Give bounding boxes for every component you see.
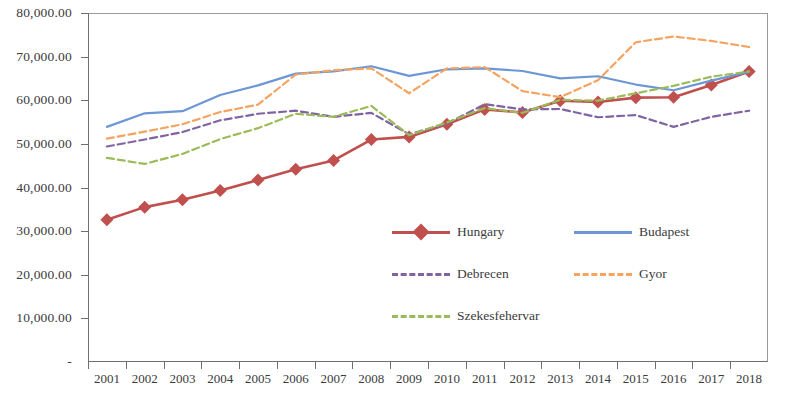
x-axis-label: 2014 — [585, 371, 611, 387]
x-axis-label: 2005 — [245, 371, 271, 387]
x-axis-tick — [428, 362, 429, 369]
x-axis-tick — [541, 362, 542, 369]
legend-swatch-icon — [392, 226, 450, 238]
y-axis-tick — [81, 231, 89, 232]
x-axis-tick — [655, 362, 656, 369]
legend-label: Debrecen — [457, 267, 509, 281]
legend-swatch-icon — [574, 268, 632, 280]
legend-item-debrecen[interactable]: Debrecen — [392, 265, 509, 283]
x-axis-label: 2009 — [396, 371, 422, 387]
x-axis-label: 2018 — [736, 371, 762, 387]
chart-legend: HungaryBudapestDebrecenGyorSzekesfeherva… — [392, 223, 722, 327]
legend-swatch-icon — [392, 268, 450, 280]
y-axis-tick — [81, 188, 89, 189]
x-axis-tick — [692, 362, 693, 369]
legend-item-gyor[interactable]: Gyor — [574, 265, 667, 283]
x-axis-tick — [390, 362, 391, 369]
data-point-marker — [327, 154, 340, 167]
x-axis-label: 2006 — [283, 371, 309, 387]
x-axis-label: 2002 — [132, 371, 158, 387]
y-axis-tick — [81, 144, 89, 145]
y-axis-tick — [81, 13, 89, 14]
series-line-debrecen — [107, 104, 749, 146]
x-axis-label: 2015 — [623, 371, 649, 387]
x-axis-tick — [277, 362, 278, 369]
x-axis-label: 2013 — [547, 371, 573, 387]
x-axis-tick — [88, 362, 89, 369]
x-axis-label: 2010 — [434, 371, 460, 387]
data-point-marker — [365, 133, 378, 146]
y-axis-tick — [81, 318, 89, 319]
x-axis-tick — [466, 362, 467, 369]
data-point-marker — [214, 184, 227, 197]
y-axis-tick — [81, 57, 89, 58]
legend-item-szekesfehervar[interactable]: Szekesfehervar — [392, 307, 539, 325]
x-axis-tick — [730, 362, 731, 369]
x-axis-label: 2004 — [207, 371, 233, 387]
x-axis-tick — [164, 362, 165, 369]
x-axis-tick — [352, 362, 353, 369]
legend-label: Szekesfehervar — [457, 309, 539, 323]
data-point-marker — [138, 201, 151, 214]
legend-label: Gyor — [639, 267, 667, 281]
legend-swatch-icon — [392, 310, 450, 322]
legend-marker-icon — [413, 224, 430, 241]
x-axis-label: 2017 — [698, 371, 724, 387]
x-axis-label: 2001 — [94, 371, 120, 387]
data-point-marker — [667, 91, 680, 104]
line-chart: -10,000.0020,000.0030,000.0040,000.0050,… — [0, 0, 790, 406]
data-point-marker — [100, 213, 113, 226]
y-axis-tick — [81, 275, 89, 276]
x-axis-tick — [239, 362, 240, 369]
legend-label: Budapest — [639, 225, 689, 239]
x-axis-label: 2011 — [472, 371, 498, 387]
legend-item-hungary[interactable]: Hungary — [392, 223, 504, 241]
plot-series-svg — [0, 0, 790, 406]
legend-item-budapest[interactable]: Budapest — [574, 223, 689, 241]
x-axis-label: 2008 — [358, 371, 384, 387]
x-axis-label: 2012 — [509, 371, 535, 387]
x-axis-label: 2003 — [169, 371, 195, 387]
legend-label: Hungary — [457, 225, 504, 239]
x-axis-tick — [617, 362, 618, 369]
data-point-marker — [251, 174, 264, 187]
x-axis-tick — [126, 362, 127, 369]
x-axis-tick — [579, 362, 580, 369]
x-axis-tick — [201, 362, 202, 369]
y-axis-tick — [81, 100, 89, 101]
data-point-marker — [591, 95, 604, 108]
data-point-marker — [289, 163, 302, 176]
x-axis-tick — [504, 362, 505, 369]
x-axis-tick — [315, 362, 316, 369]
data-point-marker — [176, 193, 189, 206]
x-axis-label: 2007 — [321, 371, 347, 387]
x-axis-label: 2016 — [661, 371, 687, 387]
legend-swatch-icon — [574, 226, 632, 238]
